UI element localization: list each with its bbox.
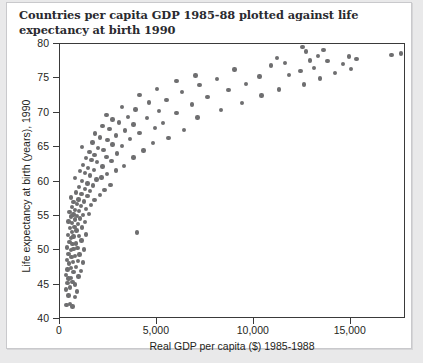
scatter-point xyxy=(74,241,78,245)
x-axis-title: Real GDP per capita ($) 1985-1988 xyxy=(59,340,405,352)
x-axis-tick-label: 10,000 xyxy=(237,324,269,336)
y-axis-tick-label: 80 xyxy=(9,37,49,49)
scatter-point xyxy=(182,128,186,132)
scatter-point xyxy=(312,66,316,70)
scatter-point xyxy=(137,93,141,97)
scatter-point xyxy=(89,203,93,207)
scatter-point xyxy=(304,49,308,53)
scatter-point xyxy=(109,159,113,163)
y-axis-tick xyxy=(53,215,59,216)
scatter-point xyxy=(65,281,69,285)
y-axis-tick xyxy=(53,249,59,250)
scatter-point xyxy=(68,285,72,289)
y-axis-tick-label: 55 xyxy=(9,209,49,221)
scatter-point xyxy=(240,101,244,105)
scatter-point xyxy=(84,156,88,160)
scatter-point xyxy=(87,150,91,154)
scatter-point xyxy=(122,164,126,168)
scatter-point xyxy=(298,69,302,73)
scatter-point xyxy=(71,260,75,264)
scatter-point xyxy=(92,198,96,202)
scatter-point xyxy=(126,115,130,119)
scatter-point xyxy=(90,140,94,144)
scatter-point xyxy=(81,213,85,217)
scatter-point xyxy=(85,194,89,198)
y-axis-tick xyxy=(53,181,59,182)
scatter-point xyxy=(133,107,137,111)
plot-area xyxy=(59,43,405,318)
scatter-point xyxy=(70,304,74,308)
scatter-point xyxy=(244,82,248,86)
scatter-point xyxy=(66,252,70,256)
scatter-point xyxy=(104,113,108,117)
scatter-point xyxy=(120,105,124,109)
scatter-point xyxy=(333,71,337,75)
scatter-point xyxy=(82,199,86,203)
scatter-point xyxy=(137,131,141,135)
scatter-point xyxy=(82,247,86,251)
scatter-point xyxy=(67,240,71,244)
scatter-point xyxy=(318,76,322,80)
scatter-point xyxy=(164,98,168,102)
scatter-point xyxy=(65,258,69,262)
scatter-point xyxy=(71,200,75,204)
scatter-point xyxy=(79,192,83,196)
scatter-point xyxy=(108,183,112,187)
scatter-point xyxy=(145,116,149,120)
scatter-point xyxy=(151,141,155,145)
scatter-point xyxy=(75,246,79,250)
scatter-point xyxy=(86,166,90,170)
scatter-point xyxy=(287,73,291,77)
scatter-point xyxy=(74,265,78,269)
scatter-point xyxy=(101,148,105,152)
scatter-point xyxy=(197,83,201,87)
scatter-point xyxy=(193,73,197,77)
scatter-point xyxy=(131,122,135,126)
scatter-point xyxy=(77,209,81,213)
scatter-point xyxy=(76,259,80,263)
scatter-point xyxy=(66,219,70,223)
scatter-point xyxy=(71,212,75,216)
scatter-point xyxy=(81,163,85,167)
scatter-point xyxy=(100,164,104,168)
scatter-point xyxy=(79,238,83,242)
scatter-point xyxy=(302,82,306,86)
y-axis-tick-label: 40 xyxy=(9,312,49,324)
scatter-point xyxy=(269,63,273,67)
scatter-point xyxy=(67,210,71,214)
scatter-point xyxy=(73,295,77,299)
scatter-plot: Life expectancy at birth (years), 1990 R… xyxy=(0,0,423,363)
scatter-point xyxy=(75,289,79,293)
scatter-point xyxy=(81,260,85,264)
scatter-point xyxy=(354,57,358,61)
scatter-point xyxy=(105,172,109,176)
scatter-point xyxy=(93,131,97,135)
scatter-point xyxy=(85,181,89,185)
scatter-point xyxy=(88,173,92,177)
scatter-point xyxy=(77,185,81,189)
y-axis-tick xyxy=(53,284,59,285)
y-axis-tick-label: 75 xyxy=(9,71,49,83)
scatter-point xyxy=(155,87,159,91)
scatter-point xyxy=(141,148,145,152)
scatter-point xyxy=(84,207,88,211)
scatter-point xyxy=(83,171,87,175)
y-axis-tick xyxy=(53,112,59,113)
scatter-point xyxy=(87,212,91,216)
scatter-point xyxy=(71,234,75,238)
scatter-point xyxy=(80,145,84,149)
scatter-point xyxy=(257,74,261,78)
scatter-point xyxy=(107,127,111,131)
scatter-point xyxy=(399,51,403,55)
scatter-point xyxy=(102,188,106,192)
scatter-point xyxy=(66,293,70,297)
scatter-point xyxy=(100,124,104,128)
scatter-point xyxy=(321,48,325,52)
scatter-point xyxy=(94,177,98,181)
scatter-point xyxy=(76,274,80,278)
scatter-point xyxy=(157,109,161,113)
scatter-point xyxy=(277,87,281,91)
scatter-point xyxy=(349,67,353,71)
scatter-point xyxy=(92,168,96,172)
scatter-point xyxy=(69,276,73,280)
